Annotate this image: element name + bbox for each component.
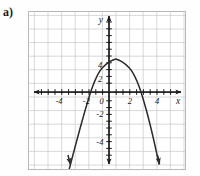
curve-arrow-left [68, 155, 70, 164]
x-axis-label: x [175, 96, 181, 106]
y-tick-label--2: -2 [96, 109, 104, 119]
x-tick-label--4: -4 [55, 96, 63, 106]
coordinate-plane-graph: -4 -2 0 2 4 4 2 -2 -4 y x [29, 12, 185, 169]
y-axis-label: y [98, 15, 104, 25]
tick-marks [41, 22, 170, 155]
x-tick-label-2: 2 [128, 96, 133, 106]
part-label: a) [3, 5, 13, 20]
x-tick-label-0: 0 [99, 96, 104, 106]
y-tick-label--4: -4 [96, 137, 104, 147]
figure-container: a) [0, 0, 200, 176]
y-tick-label-2: 2 [98, 74, 103, 84]
graph-frame: -4 -2 0 2 4 4 2 -2 -4 y x [28, 11, 186, 170]
y-tick-label-4: 4 [98, 60, 103, 70]
curve-arrow-right [157, 155, 159, 164]
parabola-curve [69, 59, 159, 169]
x-tick-label--2: -2 [83, 96, 91, 106]
